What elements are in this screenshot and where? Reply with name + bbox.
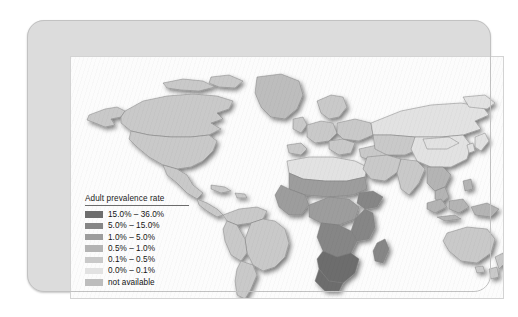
country-india xyxy=(397,159,425,195)
country-canada xyxy=(121,94,233,137)
legend-title: Adult prevalence rate xyxy=(85,193,189,207)
country-france-germany xyxy=(307,121,337,143)
country-hispaniola xyxy=(235,193,247,198)
map-legend: Adult prevalence rate 15.0% – 36.0%5.0% … xyxy=(85,193,189,288)
country-central-africa xyxy=(309,197,359,225)
country-iberia xyxy=(287,143,307,155)
legend-row: not available xyxy=(85,277,189,288)
country-central-america xyxy=(197,199,223,217)
legend-label: 1.0% – 5.0% xyxy=(108,232,155,243)
country-sumatra xyxy=(427,199,447,213)
legend-label: not available xyxy=(108,277,155,288)
world-map-panel: Adult prevalence rate 15.0% – 36.0%5.0% … xyxy=(70,56,504,299)
legend-label: 0.5% – 1.0% xyxy=(108,243,155,254)
legend-row: 0.0% – 0.1% xyxy=(85,265,189,276)
legend-rows: 15.0% – 36.0%5.0% – 15.0%1.0% – 5.0%0.5%… xyxy=(85,209,189,288)
country-southeast-asia xyxy=(427,167,451,191)
legend-swatch xyxy=(85,268,103,275)
country-philippines xyxy=(463,179,473,191)
country-iran-arabia xyxy=(363,155,401,181)
legend-label: 0.1% – 0.5% xyxy=(108,254,155,265)
legend-row: 0.5% – 1.0% xyxy=(85,243,189,254)
legend-label: 0.0% – 0.1% xyxy=(108,265,155,276)
country-brazil xyxy=(245,219,289,271)
legend-swatch xyxy=(85,279,103,286)
country-russia xyxy=(371,103,489,137)
legend-label: 5.0% – 15.0% xyxy=(108,220,160,231)
country-canada-arctic-isles xyxy=(163,79,215,91)
country-sulawesi-papua xyxy=(471,203,499,217)
region-asia xyxy=(363,95,499,221)
country-new-zealand xyxy=(495,253,503,269)
legend-swatch xyxy=(85,211,103,218)
country-uk-ireland xyxy=(293,117,307,133)
country-borneo xyxy=(449,199,469,213)
region-oceania xyxy=(443,227,503,279)
legend-swatch xyxy=(85,223,103,230)
legend-swatch xyxy=(85,245,103,252)
region-south-america xyxy=(223,207,289,298)
country-madagascar xyxy=(373,239,389,263)
country-argentina-chile xyxy=(235,261,257,298)
country-australia xyxy=(443,227,495,263)
country-horn-of-africa xyxy=(357,191,383,209)
country-italy-balkans xyxy=(329,139,355,155)
legend-swatch xyxy=(85,234,103,241)
legend-label: 15.0% – 36.0% xyxy=(108,209,164,220)
legend-row: 5.0% – 15.0% xyxy=(85,220,189,231)
legend-row: 0.1% – 0.5% xyxy=(85,254,189,265)
legend-row: 15.0% – 36.0% xyxy=(85,209,189,220)
country-new-zealand-south xyxy=(489,267,499,279)
country-cuba xyxy=(211,185,231,193)
country-peru-bolivia xyxy=(223,221,247,261)
map-card-plate: Adult prevalence rate 15.0% – 36.0%5.0% … xyxy=(27,20,491,292)
country-canada-arctic-isles-2 xyxy=(209,75,243,88)
country-scandinavia xyxy=(317,95,347,119)
country-japan xyxy=(475,133,489,151)
legend-swatch xyxy=(85,257,103,264)
country-alaska xyxy=(87,107,125,127)
figure-root: Adult prevalence rate 15.0% – 36.0%5.0% … xyxy=(0,0,518,317)
legend-row: 1.0% – 5.0% xyxy=(85,232,189,243)
country-tasmania xyxy=(475,266,485,273)
country-java xyxy=(437,215,461,221)
country-poland-ukraine xyxy=(337,119,373,141)
country-greenland xyxy=(255,74,303,119)
